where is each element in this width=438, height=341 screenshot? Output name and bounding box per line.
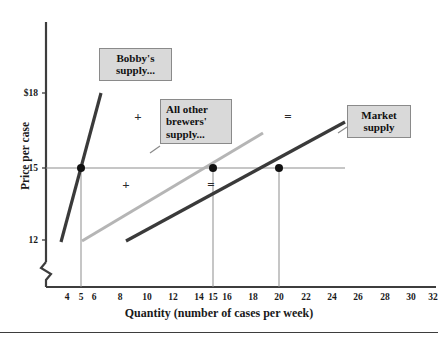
annotation-plus-lower: + xyxy=(122,177,129,193)
series-line-all-other-brewers-supply xyxy=(82,133,263,241)
x-tick-label-20: 20 xyxy=(274,292,284,302)
x-tick-label-30: 30 xyxy=(406,292,416,302)
x-tick-label-4: 4 xyxy=(65,292,70,302)
supply-curve-chart: Price per case $18 15 12 4 5 6 8 10 12 1… xyxy=(0,0,438,341)
series-line-market-supply xyxy=(126,122,345,241)
x-tick-label-32: 32 xyxy=(428,292,438,302)
x-axis-title: Quantity (number of cases per week) xyxy=(0,306,438,321)
y-tick-label-18: $18 xyxy=(8,88,38,98)
annotation-equals-upper: = xyxy=(284,109,291,125)
x-tick-label-18: 18 xyxy=(248,292,258,302)
y-axis-title: Price per case xyxy=(19,101,31,211)
y-tick-label-15: 15 xyxy=(8,163,38,173)
data-point-bobbys-q5 xyxy=(77,164,85,172)
x-tick-label-10: 10 xyxy=(142,292,152,302)
data-point-market-q20 xyxy=(275,164,283,172)
data-point-others-q15 xyxy=(209,164,217,172)
x-tick-label-5: 5 xyxy=(79,292,84,302)
annotation-equals-lower: = xyxy=(207,177,214,193)
x-tick-label-8: 8 xyxy=(118,292,123,302)
x-tick-label-15: 15 xyxy=(208,292,218,302)
x-tick-label-24: 24 xyxy=(327,292,337,302)
x-tick-label-22: 22 xyxy=(301,292,311,302)
annotation-plus-upper: + xyxy=(134,109,141,125)
y-tick-label-12: 12 xyxy=(8,235,38,245)
y-axis-break-icon xyxy=(41,262,51,287)
x-tick-label-12: 12 xyxy=(168,292,178,302)
x-tick-label-16: 16 xyxy=(222,292,232,302)
x-tick-label-26: 26 xyxy=(353,292,363,302)
chart-canvas xyxy=(0,0,438,341)
x-tick-label-14: 14 xyxy=(194,292,204,302)
x-tick-label-28: 28 xyxy=(380,292,390,302)
callout-market-supply: Market supply xyxy=(347,105,411,138)
reference-lines-group xyxy=(46,168,345,287)
footer-divider xyxy=(0,332,438,333)
callout-bobbys-supply: Bobby's supply... xyxy=(99,48,172,81)
x-tick-label-6: 6 xyxy=(92,292,97,302)
callout-all-other-brewers-supply: All other brewers' supply... xyxy=(160,99,232,144)
callout-pointer-market xyxy=(338,127,347,133)
callout-pointer-others xyxy=(150,146,160,153)
